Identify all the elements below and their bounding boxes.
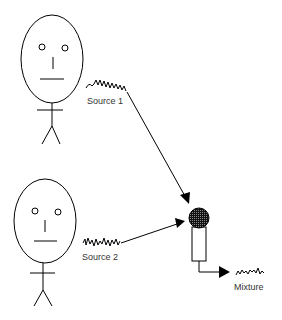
- microphone-body: [192, 227, 206, 261]
- person-1-left-eye: [39, 44, 45, 50]
- person-1-left-leg: [42, 126, 52, 144]
- source-1-arrow: [127, 92, 190, 204]
- person-1-right-eye: [62, 45, 68, 51]
- person-1-right-leg: [52, 126, 60, 144]
- mixture-arrowhead: [219, 266, 230, 278]
- person-2-left-eye: [32, 208, 38, 214]
- person-2-figure: [14, 179, 76, 306]
- mixture-label: Mixture: [234, 282, 264, 292]
- microphone-head: [189, 208, 209, 228]
- source-2-label: Source 2: [82, 252, 118, 262]
- person-2-left-leg: [34, 290, 43, 306]
- person-1-figure: [21, 15, 83, 144]
- microphone-cable: [199, 261, 222, 272]
- source-2-arrow: [121, 218, 185, 243]
- mixture-waveform-icon: [236, 268, 264, 275]
- person-2-right-leg: [43, 290, 52, 306]
- source-1-waveform-icon: [86, 80, 126, 91]
- source-2-waveform-icon: [83, 238, 120, 246]
- person-1-head: [21, 15, 83, 103]
- microphone-icon: [189, 208, 230, 278]
- person-2-right-eye: [55, 209, 61, 215]
- diagram-canvas: [0, 0, 282, 320]
- source-1-label: Source 1: [87, 96, 123, 106]
